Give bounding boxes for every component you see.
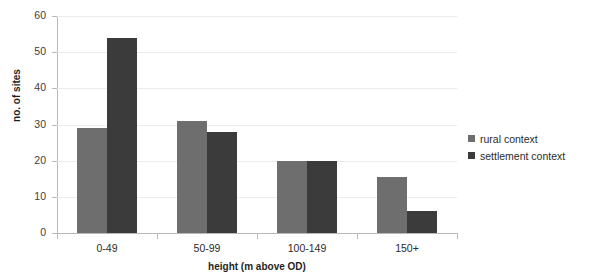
x-axis-tick-label: 150+ xyxy=(357,242,457,254)
bar-chart: no. of sites 0102030405060 0-4950-99100-… xyxy=(0,0,589,280)
y-axis-tick-label: 30 xyxy=(4,119,46,130)
bar xyxy=(407,211,437,233)
bar xyxy=(177,121,207,233)
x-axis-tick-mark xyxy=(157,233,158,239)
bar xyxy=(207,132,237,233)
y-axis-tick-label: 20 xyxy=(4,155,46,166)
x-axis-tick-mark xyxy=(57,233,58,239)
legend-swatch-icon xyxy=(468,135,475,142)
plot-area xyxy=(57,16,457,233)
x-axis-labels: 0-4950-99100-149150+ xyxy=(57,242,457,254)
x-axis-title: height (m above OD) xyxy=(57,261,457,272)
legend-swatch-icon xyxy=(468,152,475,159)
x-axis-tick-mark xyxy=(357,233,358,239)
y-axis-tick-label: 40 xyxy=(4,82,46,93)
x-axis-tick-label: 50-99 xyxy=(157,242,257,254)
x-axis-tick-label: 100-149 xyxy=(257,242,357,254)
x-axis-tick-mark xyxy=(457,233,458,239)
bar-group xyxy=(57,16,157,233)
legend-label: rural context xyxy=(480,133,538,145)
bar-group xyxy=(257,16,357,233)
x-axis-tick-label: 0-49 xyxy=(57,242,157,254)
bar-group xyxy=(357,16,457,233)
y-axis-tick-label: 0 xyxy=(4,227,46,238)
bar xyxy=(277,161,307,233)
bar xyxy=(307,161,337,233)
bar xyxy=(77,128,107,233)
y-axis-tick-label: 60 xyxy=(4,10,46,21)
legend-item[interactable]: rural context xyxy=(468,130,565,147)
bar xyxy=(377,177,407,233)
bar-groups xyxy=(57,16,457,233)
y-axis-tick-label: 50 xyxy=(4,46,46,57)
legend: rural contextsettlement context xyxy=(468,130,565,164)
y-axis-tick-label: 10 xyxy=(4,191,46,202)
bar-group xyxy=(157,16,257,233)
bar xyxy=(107,38,137,233)
legend-item[interactable]: settlement context xyxy=(468,147,565,164)
x-axis-tick-mark xyxy=(257,233,258,239)
legend-label: settlement context xyxy=(480,150,565,162)
